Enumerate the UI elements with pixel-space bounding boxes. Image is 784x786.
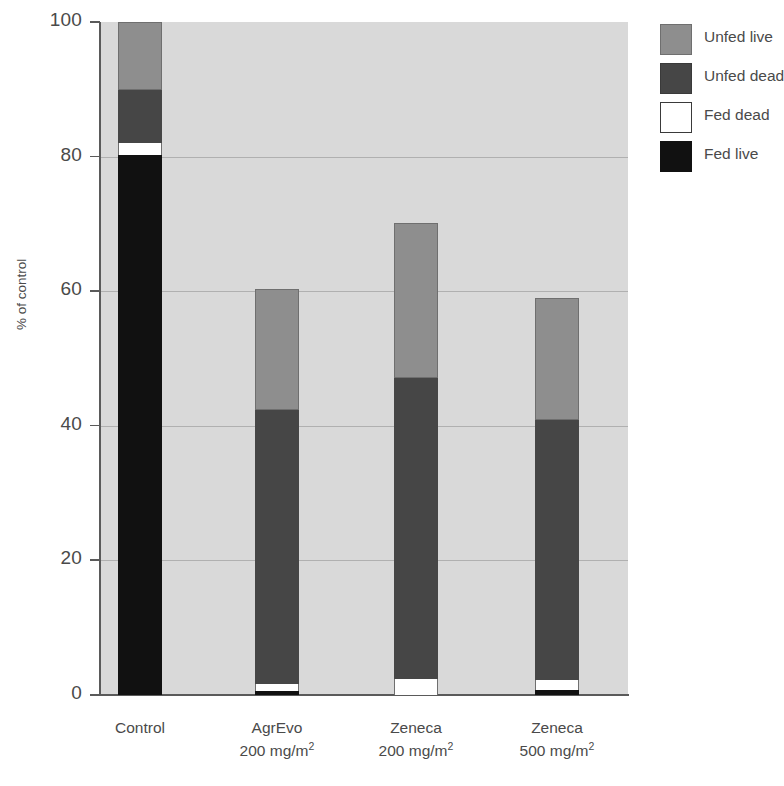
y-axis-title: % of control: [14, 150, 29, 330]
bar-segment-fed-dead: [118, 143, 162, 155]
x-axis-label-4: Zeneca500 mg/m2: [457, 716, 657, 763]
bar-segment-fed-dead: [394, 679, 438, 695]
y-tick-mark-0: [90, 694, 100, 696]
legend-swatch-unfed-live-icon: [660, 24, 692, 55]
bar-segment-fed-dead: [535, 680, 579, 690]
y-tick-label-40: 40: [22, 413, 82, 435]
x-axis-label-exponent: 2: [589, 740, 595, 752]
bar-segment-unfed-dead: [535, 420, 579, 680]
x-axis-label-line1: Zeneca: [390, 719, 442, 736]
y-tick-label-60: 60: [22, 278, 82, 300]
bar-3: [394, 223, 438, 695]
bar-segment-fed-dead: [255, 684, 299, 691]
x-axis-label-line1: AgrEvo: [252, 719, 303, 736]
bar-segment-unfed-live: [394, 223, 438, 378]
x-axis-label-exponent: 2: [309, 740, 315, 752]
x-axis-label-line1: Control: [115, 719, 165, 736]
x-axis-label-exponent: 2: [448, 740, 454, 752]
y-tick-mark-80: [90, 156, 100, 158]
legend-label: Unfed live: [704, 28, 773, 46]
gridline-80: [100, 157, 628, 158]
bar-segment-fed-live: [255, 691, 299, 695]
bar-segment-fed-live: [535, 690, 579, 695]
x-axis-label-dose: 200 mg/m: [240, 742, 309, 759]
bar-1: [118, 22, 162, 695]
x-axis-label-line2: 500 mg/m2: [457, 739, 657, 762]
legend-swatch-unfed-dead-icon: [660, 63, 692, 94]
y-axis-line: [99, 22, 101, 696]
bar-2: [255, 289, 299, 695]
x-axis-label-line1: Zeneca: [531, 719, 583, 736]
legend-label: Fed live: [704, 145, 758, 163]
bar-segment-unfed-dead: [118, 90, 162, 143]
legend-swatch-fed-dead-icon: [660, 102, 692, 133]
legend-swatch-fed-live-icon: [660, 141, 692, 172]
bar-segment-unfed-dead: [394, 378, 438, 679]
bar-segment-fed-live: [118, 155, 162, 695]
gridline-60: [100, 291, 628, 292]
y-tick-label-100: 100: [22, 9, 82, 31]
y-tick-label-0: 0: [22, 682, 82, 704]
bar-segment-unfed-live: [255, 289, 299, 410]
x-axis-label-dose: 200 mg/m: [379, 742, 448, 759]
bar-segment-unfed-live: [118, 22, 162, 90]
bar-segment-unfed-live: [535, 298, 579, 420]
y-tick-mark-40: [90, 425, 100, 427]
y-tick-mark-20: [90, 559, 100, 561]
y-tick-label-80: 80: [22, 144, 82, 166]
legend-label: Unfed dead: [704, 67, 784, 85]
bar-4: [535, 298, 579, 695]
x-axis-label-dose: 500 mg/m: [520, 742, 589, 759]
y-tick-label-20: 20: [22, 547, 82, 569]
y-tick-mark-60: [90, 290, 100, 292]
y-tick-mark-100: [90, 21, 100, 23]
legend-label: Fed dead: [704, 106, 770, 124]
bar-segment-unfed-dead: [255, 410, 299, 684]
